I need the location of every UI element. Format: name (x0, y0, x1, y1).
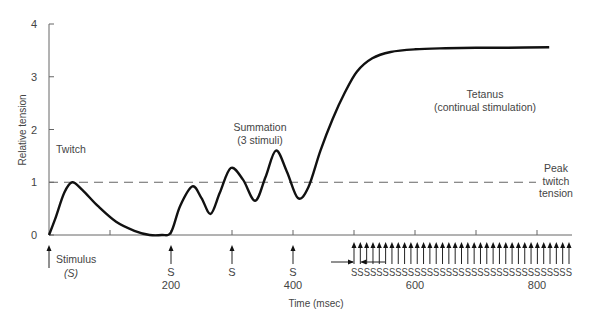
stimulus-arrow-head (169, 245, 174, 251)
tension-curve (49, 47, 549, 235)
tetanus-stimulus-arrow-head (516, 242, 521, 248)
tetanus-stimulus-arrow-head (415, 242, 420, 248)
tetanus-stimulus-arrow-head (446, 242, 451, 248)
interval-right-arrow-head (348, 260, 354, 265)
tetanus-stimulus-arrow-head (491, 242, 496, 248)
tension-curve-path (49, 47, 549, 235)
stimulus-s-label: S (228, 266, 235, 278)
tetanus-stimulus-arrow-head (427, 242, 432, 248)
y-tick-label: 0 (31, 229, 37, 241)
tetanus-stimulus-arrow-head (421, 242, 426, 248)
y-tick-label: 1 (31, 176, 37, 188)
y-axis-title: Relative tension (17, 94, 28, 165)
tetanus-stimulus-arrow-head (503, 242, 508, 248)
tetanus-stimulus-arrow-head (396, 242, 401, 248)
stimulus-arrow-head (230, 245, 235, 251)
tetanus-stimulus-arrow-head (465, 242, 470, 248)
tetanus-stimulus-arrow-head (554, 242, 559, 248)
tetanus-stimulus-arrow-head (358, 242, 363, 248)
tetanus-stimulus-arrow-head (440, 242, 445, 248)
annotation-label: Twitch (56, 143, 86, 155)
annotation-label: Peak (544, 162, 569, 174)
stimulus-markers: Stimulus(S)SSSSSSSSSSSSSSSSSSSSSSSSSSSSS… (47, 242, 573, 279)
tetanus-stimulus-arrow-head (383, 242, 388, 248)
stimulus-label: Stimulus (56, 253, 96, 265)
annotation-label: (3 stimuli) (237, 134, 283, 146)
tetanus-stimulus-arrow-head (453, 242, 458, 248)
tetanus-stimulus-arrow-head (472, 242, 477, 248)
tetanus-stimulus-arrow-head (408, 242, 413, 248)
tetanus-stimulus-arrow-head (434, 242, 439, 248)
tetanus-stimulus-arrow-head (497, 242, 502, 248)
y-tick-label: 2 (31, 124, 37, 136)
tetanus-stimulus-arrow-head (389, 242, 394, 248)
stimulus-s-label: S (289, 266, 296, 278)
tetanus-stimulus-arrow-head (370, 242, 375, 248)
tetanus-stimulus-arrow-head (352, 242, 357, 248)
stimulus-sub-label: (S) (64, 267, 78, 279)
stimulus-s-label: S (167, 266, 174, 278)
y-tick-label: 4 (31, 18, 37, 30)
tetanus-stimulus-arrow-head (402, 242, 407, 248)
tetanus-stimulus-arrow-head (377, 242, 382, 248)
tetanus-stimulus-arrow-head (529, 242, 534, 248)
tetanus-stimulus-arrow-head (541, 242, 546, 248)
tetanus-s-labels: SSSSSSSSSSSSSSSSSSSSSSSSSSSSSSSSSSS (351, 266, 572, 278)
tension-chart: 01234200400600800Time (msec)Relative ten… (0, 0, 589, 324)
tetanus-stimulus-arrow-head (478, 242, 483, 248)
tetanus-stimulus-arrow-head (560, 242, 565, 248)
annotation-label: tension (539, 187, 573, 199)
x-tick-label: 800 (528, 279, 546, 291)
chart-labels: TwitchSummation(3 stimuli)Tetanus(contin… (56, 88, 573, 199)
tetanus-stimulus-arrow-head (522, 242, 527, 248)
stimulus-arrow-head (47, 245, 52, 251)
x-tick-label: 200 (162, 279, 180, 291)
tetanus-stimulus-arrow-head (459, 242, 464, 248)
tetanus-stimulus-arrow-head (484, 242, 489, 248)
tetanus-stimulus-arrow-head (510, 242, 515, 248)
y-tick-label: 3 (31, 71, 37, 83)
annotation-label: twitch (543, 175, 570, 187)
x-tick-label: 400 (284, 279, 302, 291)
tetanus-stimulus-arrow-head (548, 242, 553, 248)
annotation-label: (continual stimulation) (434, 101, 536, 113)
stimulus-arrow-head (291, 245, 296, 251)
tetanus-stimulus-arrow-head (535, 242, 540, 248)
tetanus-stimulus-arrow-head (567, 242, 572, 248)
x-axis-title: Time (msec) (288, 298, 343, 309)
interval-left-arrow-head (360, 260, 366, 265)
tetanus-stimulus-arrow-head (364, 242, 369, 248)
x-tick-label: 600 (406, 279, 424, 291)
annotation-label: Summation (233, 121, 286, 133)
annotation-label: Tetanus (467, 88, 504, 100)
